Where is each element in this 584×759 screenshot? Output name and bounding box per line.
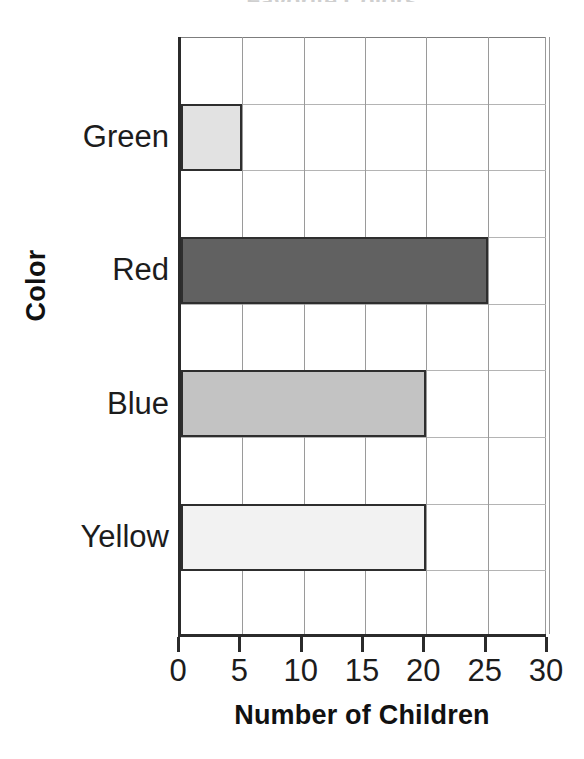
x-tick-label-15: 15 [332,654,392,688]
x-tick-mark [545,637,548,652]
y-tick-label-red: Red [10,254,178,285]
x-tick-label-5: 5 [209,654,269,688]
bar-red [181,237,488,304]
x-tick-mark [300,637,303,652]
x-tick-mark [422,637,425,652]
bar-yellow [181,504,426,571]
y-tick-label-green: Green [10,121,178,152]
x-tick-label-30: 30 [516,654,576,688]
x-axis-tick-labels: 051015202530 [178,654,546,694]
x-tick-mark [238,637,241,652]
x-tick-label-0: 0 [148,654,208,688]
bar-blue [181,370,426,437]
y-axis-tick-labels: GreenRedBlueYellow [0,37,178,637]
bars-layer [181,37,546,634]
x-tick-label-25: 25 [455,654,515,688]
x-tick-mark [177,637,180,652]
x-tick-mark [484,637,487,652]
y-tick-label-blue: Blue [10,388,178,419]
x-axis-title: Number of Children [178,700,546,731]
chart-title: Favorite Colors [182,0,482,2]
y-tick-label-yellow: Yellow [10,521,178,552]
x-tick-label-10: 10 [271,654,331,688]
bar-green [181,104,242,171]
x-tick-label-20: 20 [393,654,453,688]
plot-area [178,37,546,637]
x-tick-mark [361,637,364,652]
gridline-vertical [549,37,550,634]
